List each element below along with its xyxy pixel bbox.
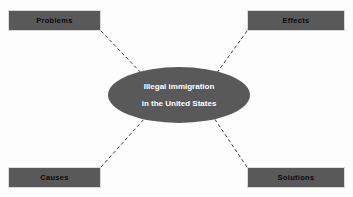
- center-topic-line-2: in the United States: [142, 100, 217, 108]
- center-topic-ellipse[interactable]: Illegal immigration in the United States: [108, 67, 250, 123]
- node-box-effects[interactable]: Effects: [247, 10, 345, 31]
- node-label-effects: Effects: [282, 17, 309, 25]
- connector-problems-to-center: [101, 31, 145, 77]
- connector-effects-to-center: [214, 31, 247, 77]
- node-box-causes[interactable]: Causes: [8, 167, 101, 188]
- node-label-solutions: Solutions: [278, 174, 315, 182]
- node-label-problems: Problems: [36, 17, 73, 25]
- node-box-solutions[interactable]: Solutions: [247, 167, 345, 188]
- center-topic-line-1: Illegal immigration: [144, 83, 215, 91]
- concept-map-diagram: Problems Effects Causes Solutions Illega…: [0, 0, 353, 197]
- node-label-causes: Causes: [40, 174, 68, 182]
- connector-causes-to-center: [101, 118, 145, 167]
- node-box-problems[interactable]: Problems: [8, 10, 101, 31]
- connector-solutions-to-center: [214, 118, 247, 167]
